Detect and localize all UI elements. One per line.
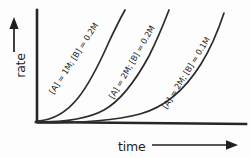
y-axis-label: rate [13, 43, 28, 89]
rate-vs-time-chart: rate time [A] = 1M; [B] = 0.2M [A] = 2M;… [0, 0, 250, 158]
x-axis-arrow [152, 140, 238, 150]
x-axis-label: time [118, 139, 145, 154]
